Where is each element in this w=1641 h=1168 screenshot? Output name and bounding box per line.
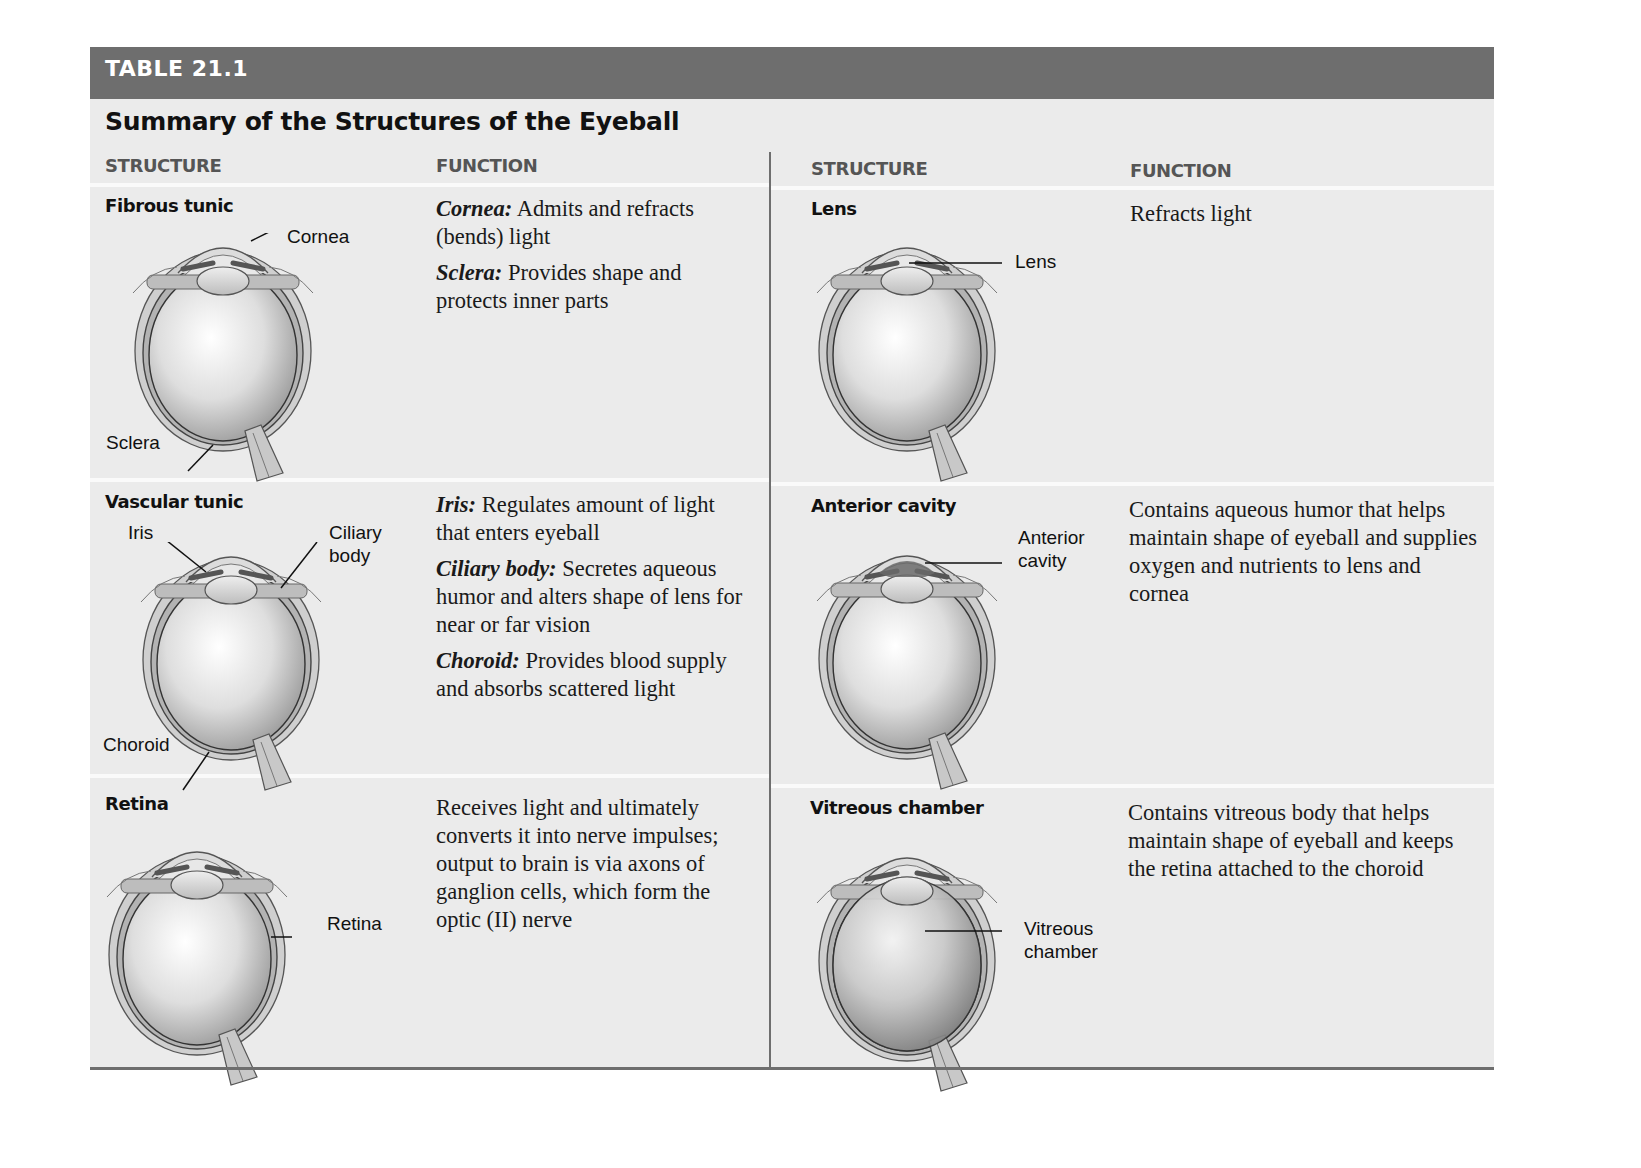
structure-name: Anterior cavity	[811, 495, 956, 516]
function-text: Refracts light	[1130, 200, 1480, 236]
label-vitreous-chamber: Vitreous chamber	[1024, 917, 1124, 963]
structure-name: Lens	[811, 198, 857, 219]
column-divider	[769, 152, 771, 1070]
column-header-function-right: FUNCTION	[1130, 160, 1231, 181]
function-text: Receives light and ultimately converts i…	[436, 794, 756, 942]
table-number: TABLE 21.1	[105, 56, 248, 81]
header-separator-left	[90, 183, 769, 187]
header-separator-right	[771, 186, 1494, 190]
table-bottom-rule	[90, 1067, 1494, 1070]
column-header-function-left: FUNCTION	[436, 155, 537, 176]
function-text: Contains aqueous humor that helps mainta…	[1129, 496, 1479, 616]
label-sclera: Sclera	[106, 431, 160, 454]
function-text: Iris: Regulates amount of light that ent…	[436, 491, 746, 711]
function-text: Contains vitreous body that helps mainta…	[1128, 799, 1478, 891]
label-lens: Lens	[1015, 250, 1056, 273]
column-header-structure-right: STRUCTURE	[811, 158, 927, 179]
structure-name: Vitreous chamber	[810, 797, 984, 818]
retina-eye-diagram	[102, 837, 292, 1087]
structure-name: Retina	[105, 793, 168, 814]
label-iris: Iris	[128, 521, 153, 544]
label-choroid: Choroid	[103, 733, 170, 756]
column-header-structure-left: STRUCTURE	[105, 155, 221, 176]
structure-name: Fibrous tunic	[105, 195, 233, 216]
anterior-cavity-eye-diagram	[812, 541, 1002, 791]
label-ciliary-body: Ciliary body	[329, 521, 409, 567]
table-title: Summary of the Structures of the Eyeball	[105, 107, 679, 136]
label-anterior-cavity: Anterior cavity	[1018, 526, 1108, 572]
lens-eye-diagram	[812, 233, 1002, 483]
label-cornea: Cornea	[287, 225, 349, 248]
label-retina: Retina	[327, 912, 382, 935]
structure-name: Vascular tunic	[105, 491, 243, 512]
vitreous-chamber-eye-diagram	[812, 843, 1002, 1093]
summary-table: TABLE 21.1 Summary of the Structures of …	[90, 47, 1494, 1070]
function-text: Cornea: Admits and refracts (bends) ligh…	[436, 195, 756, 323]
table-header-bar: TABLE 21.1	[90, 47, 1494, 99]
